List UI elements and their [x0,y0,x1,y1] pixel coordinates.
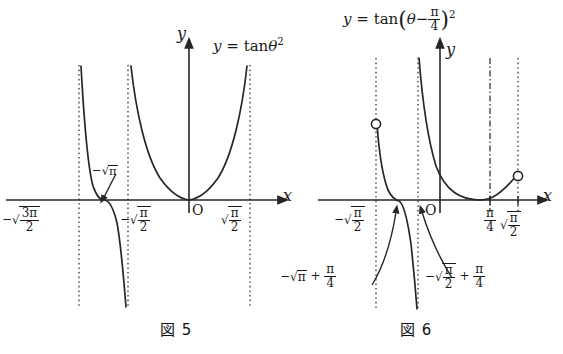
denominator: 2 [138,220,150,234]
denominator: 4 [324,276,336,290]
open-point-upper-left [371,119,380,128]
denominator: 2 [352,220,364,234]
equation-arg: θ [268,37,277,55]
numerator: π [138,207,150,220]
equation-equals: = [226,37,239,55]
radical: √π2 [435,263,456,290]
denominator: 4 [484,220,496,234]
figure-5-label-neg-sqrt-pi-over-2: −√π2 [120,206,151,233]
figure-6-origin-label: O [425,203,436,217]
figure-5-label-neg-sqrt-3pi-over-2: −√3π2 [2,206,40,233]
equation-fn: tan [374,10,399,28]
numerator: π [443,264,455,277]
equation-lhs: y [213,37,221,55]
figure-6-caption: 図 6 [400,318,432,339]
figure-6-branch-left [377,124,417,309]
minus-sign: − [92,163,102,177]
denominator: 2 [443,277,455,291]
figure-sheet: y = tanθ2 y x O −√3π2 −√π2 √π2 −√π 図 5 y… [0,0,563,354]
figure-6-label-sqrt-pi-over-2: √π2 [500,211,521,238]
figure-5-caption: 図 5 [160,318,192,339]
figure-5-equation: y = tanθ2 [213,37,284,54]
radical: √3π2 [12,206,40,233]
minus-sign: − [280,269,290,283]
radical: √π [102,165,118,178]
figure-6-label-pi-over-4: π4 [484,207,496,233]
equation-close-paren: ) [440,7,449,32]
equation-open-paren: ( [398,7,407,32]
radical: √π2 [130,206,151,233]
numerator: π [473,263,485,276]
minus-sign: − [2,212,12,226]
figure-6-annotation-neg-sqrt-pi-plus-pi-over-4: −√π + π4 [280,263,336,289]
open-point-lower-right [513,171,522,180]
numerator: π [229,207,241,220]
radicand: π [297,270,307,283]
equation-exponent: 2 [449,9,455,20]
equation-arg: θ [407,10,416,28]
figure-6-x-axis-label: x [543,188,552,204]
figure-5-annotation-neg-sqrt-pi: −√π [92,165,118,178]
equation-operator: − [416,10,429,28]
figure-6-annotation-neg-sqrt-pi-over-2-plus-pi-over-4: −√π2 + π4 [425,263,485,290]
minus-sign: − [120,212,130,226]
equation-equals: = [356,10,369,28]
figure-6-branch-right [419,58,516,200]
numerator: π [484,207,496,220]
radical: √π [290,270,307,283]
figure-5-branch-left [81,66,126,307]
numerator: 3π [20,207,40,220]
numerator: π [428,6,440,19]
figure-6-equation: y = tan(θ−π4)2 [343,6,455,33]
radicand: π [108,165,118,178]
radical: √π2 [500,211,521,238]
figure-5-y-axis-label: y [177,26,186,42]
radical: √π2 [221,206,242,233]
plus-sign: + [310,269,320,283]
numerator: π [324,263,336,276]
denominator: 2 [229,220,241,234]
minus-sign: − [425,269,435,283]
denominator: 2 [20,220,40,234]
numerator: π [352,207,364,220]
figure-5-graph [6,48,278,308]
figure-5-x-axis-label: x [283,188,292,204]
numerator: π [508,212,520,225]
figure-5-label-sqrt-pi-over-2: √π2 [221,206,242,233]
radical: √π2 [344,206,365,233]
equation-lhs: y [343,10,351,28]
plus-sign: + [459,269,469,283]
minus-sign: − [334,212,344,226]
denominator: 4 [473,276,485,290]
figure-6-y-axis-label: y [446,42,455,58]
denominator: 2 [508,225,520,239]
denominator: 4 [428,19,440,33]
equation-exponent: 2 [277,36,283,47]
figure-6-label-neg-sqrt-pi-over-2: −√π2 [334,206,365,233]
equation-fn: tan [244,37,269,55]
figure-5-origin-label: O [192,203,203,217]
figure-6-callout-leader-left [372,212,396,285]
